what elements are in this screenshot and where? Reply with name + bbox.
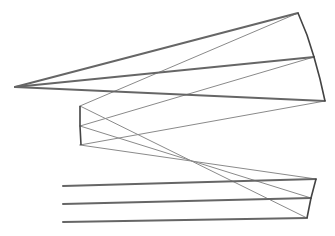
reflected-ray [80,126,311,198]
focusing-rays [15,13,325,101]
focusing-ray [15,13,298,87]
reflected-ray [80,101,325,145]
reflected-rays [80,13,325,218]
incoming-ray [63,179,316,186]
incoming-parallel-rays [63,179,316,222]
focusing-ray [15,57,314,87]
optical-ray-diagram [0,0,335,236]
incoming-ray [63,218,307,222]
focusing-ray [15,87,325,101]
reflected-ray [80,145,316,179]
incoming-ray [63,198,311,204]
